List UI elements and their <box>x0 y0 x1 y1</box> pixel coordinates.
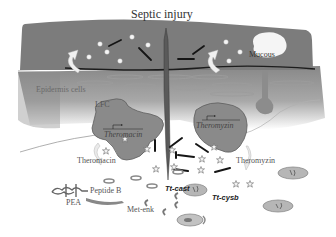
epidermis-label: Epidermis cells <box>36 86 86 94</box>
tt-cysb-label: Tt-cysb <box>212 194 239 202</box>
theromyzin-peptide-label: Theromyzin <box>236 157 275 165</box>
epidermis-layer <box>18 66 325 130</box>
pea-structure <box>52 184 88 197</box>
theromacin-peptide-label: Theromacin <box>77 157 116 165</box>
diagram-svg <box>0 0 336 237</box>
lfc-label: LFC <box>95 101 110 109</box>
peptide-b-shape <box>86 198 124 205</box>
title: Septic injury <box>131 8 193 20</box>
mucous-label: Mucous <box>249 51 275 59</box>
theromyzin-gene-label: Theromyzin <box>196 122 233 130</box>
met-enk-label: Met-enk <box>127 206 154 214</box>
diagram-canvas: Septic injury Mucous Epidermis cells LFC… <box>0 0 336 237</box>
pea-label: PEA <box>66 199 81 207</box>
tt-cast-label: Tt-cast <box>165 185 190 193</box>
hemocytes <box>177 167 308 226</box>
peptide-b-label: Peptide B <box>90 187 121 195</box>
theromacin-gene-label: Theromacin <box>104 131 142 139</box>
